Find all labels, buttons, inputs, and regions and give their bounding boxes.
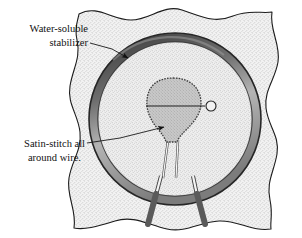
hoop-diagram-svg: Water-soluble stabilizer Satin-stitch al… — [0, 0, 302, 238]
satin-stitch-label-line2: around wire. — [28, 152, 81, 163]
illustration-root: Water-soluble stabilizer Satin-stitch al… — [0, 0, 302, 238]
wire-loop-circle — [206, 101, 216, 111]
satin-stitch-label-line1: Satin-stitch all — [24, 138, 85, 149]
water-soluble-stabilizer-label-line1: Water-soluble — [30, 23, 89, 34]
water-soluble-stabilizer-label-line2: stabilizer — [50, 37, 89, 48]
